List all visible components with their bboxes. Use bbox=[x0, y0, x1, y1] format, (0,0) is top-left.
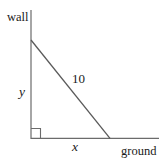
hypotenuse-line bbox=[31, 40, 110, 138]
right-angle-marker-icon bbox=[31, 129, 41, 139]
geometry-figure: wall y 10 x ground bbox=[0, 0, 166, 163]
wall-label: wall bbox=[7, 11, 29, 24]
ground-label: ground bbox=[121, 145, 156, 158]
horizontal-leg-label: x bbox=[72, 140, 78, 154]
hypotenuse-length-label: 10 bbox=[72, 72, 85, 85]
vertical-leg-label: y bbox=[19, 85, 25, 99]
